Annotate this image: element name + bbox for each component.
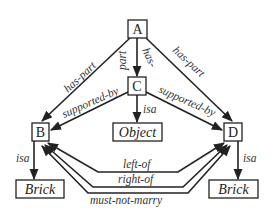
node-c: C: [128, 77, 146, 95]
label-a-c-part: part: [116, 50, 129, 71]
label-right-of: right-of: [118, 173, 155, 186]
node-object-label: Object: [119, 125, 157, 140]
node-b-label: B: [36, 125, 45, 140]
node-b: B: [32, 123, 49, 141]
node-d-label: D: [228, 125, 238, 140]
node-c-label: C: [132, 79, 141, 94]
label-c-object: isa: [143, 103, 157, 115]
label-must-not-marry: must-not-marry: [90, 194, 163, 207]
node-brick-right-label: Brick: [218, 182, 249, 197]
node-object: Object: [113, 123, 162, 141]
label-b-brick: isa: [16, 152, 30, 164]
semantic-network-diagram: has-part part has- has-part supported-by…: [0, 0, 276, 219]
node-d: D: [224, 123, 242, 141]
label-a-d: has-part: [170, 44, 208, 81]
node-brick-left: Brick: [16, 180, 64, 198]
label-a-b: has-part: [61, 59, 99, 96]
edge-a-d: [146, 38, 232, 121]
node-brick-left-label: Brick: [25, 182, 56, 197]
node-brick-right: Brick: [209, 180, 258, 198]
node-a-label: A: [132, 22, 143, 37]
node-a: A: [128, 20, 147, 38]
label-left-of: left-of: [123, 158, 152, 171]
label-d-brick: isa: [243, 152, 257, 164]
